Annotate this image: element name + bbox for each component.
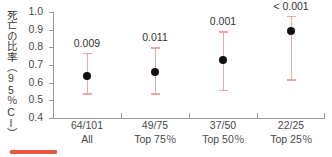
p-value-annotation: 0.001 <box>210 15 236 27</box>
category-count-label: 22/25 <box>270 119 312 132</box>
x-axis-category: 22/25Top 25％ <box>270 119 312 146</box>
data-point-marker <box>219 56 227 64</box>
ci-upper-cap <box>83 53 92 54</box>
y-axis-tick: 0.5 <box>49 100 53 101</box>
data-point-marker <box>287 27 295 35</box>
y-axis-line <box>53 12 54 118</box>
y-axis-tick-label: 0.8 <box>28 40 43 52</box>
data-point-marker <box>83 72 91 80</box>
ci-lower-cap <box>287 79 296 80</box>
x-axis-tick <box>121 113 122 118</box>
y-axis-tick: 0.8 <box>49 47 53 48</box>
p-value-annotation: < 0.001 <box>273 0 308 12</box>
y-axis-tick-label: 0.6 <box>28 76 43 88</box>
legend-color-swatch <box>10 150 57 154</box>
p-value-annotation: 0.011 <box>142 31 168 43</box>
x-axis-category: 49/75Top 75％ <box>134 119 176 146</box>
y-axis-tick-label: 0.7 <box>28 58 43 70</box>
ci-upper-cap <box>219 31 228 32</box>
y-axis-tick: 1.0 <box>49 12 53 13</box>
plot-area: 1.00.90.80.70.60.50.40.0090.0110.001< 0.… <box>53 12 325 118</box>
category-name-label: All <box>71 132 103 146</box>
mortality-ratio-chart: 死亡の比率（95％CI） 1.00.90.80.70.60.50.40.0090… <box>0 0 332 157</box>
x-axis-category: 37/50Top 50％ <box>202 119 244 146</box>
ci-lower-cap <box>83 93 92 94</box>
x-axis-category-labels: 64/101All49/75Top 75％37/50Top 50％22/25To… <box>53 119 325 153</box>
x-axis-tick <box>189 113 190 118</box>
y-axis-tick: 0.6 <box>49 83 53 84</box>
category-name-label: Top 75％ <box>134 132 176 146</box>
y-axis-tick: 0.9 <box>49 30 53 31</box>
ci-upper-cap <box>287 16 296 17</box>
data-point-marker <box>151 68 159 76</box>
ci-lower-cap <box>219 90 228 91</box>
y-axis-tick-label: 0.9 <box>28 23 43 35</box>
category-count-label: 37/50 <box>202 119 244 132</box>
ci-lower-cap <box>151 93 160 94</box>
y-axis-tick-label: 0.5 <box>28 93 43 105</box>
category-name-label: Top 25％ <box>270 132 312 146</box>
x-axis-tick <box>257 113 258 118</box>
y-axis-tick: 0.7 <box>49 65 53 66</box>
category-count-label: 49/75 <box>134 119 176 132</box>
y-axis-tick-label: 0.4 <box>28 111 43 123</box>
category-name-label: Top 50％ <box>202 132 244 146</box>
y-axis-tick-label: 1.0 <box>28 5 43 17</box>
y-axis-title: 死亡の比率（95％CI） <box>1 8 19 140</box>
ci-upper-cap <box>151 47 160 48</box>
x-axis-category: 64/101All <box>71 119 103 146</box>
x-axis-tick <box>324 113 325 118</box>
p-value-annotation: 0.009 <box>74 37 100 49</box>
confidence-interval-bar <box>291 16 292 80</box>
category-count-label: 64/101 <box>71 119 103 132</box>
